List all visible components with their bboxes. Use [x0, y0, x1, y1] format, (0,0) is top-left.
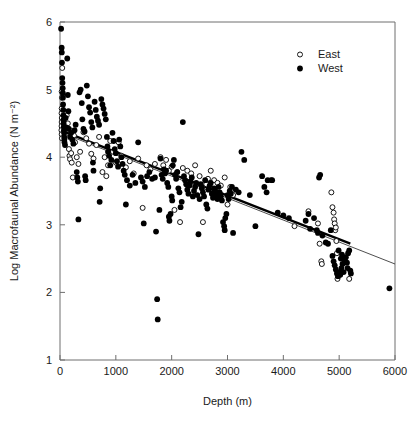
data-point-west: [76, 216, 82, 222]
data-point-east: [197, 174, 202, 179]
data-point-west: [105, 143, 111, 149]
data-point-west: [124, 177, 130, 183]
data-point-east: [100, 170, 105, 175]
data-point-west: [78, 87, 84, 93]
data-point-west: [230, 230, 236, 236]
data-point-west: [387, 285, 393, 291]
legend-marker-east: [298, 52, 303, 57]
data-point-east: [334, 239, 339, 244]
legend-marker-west: [297, 66, 303, 72]
data-point-west: [135, 139, 141, 145]
data-point-west: [264, 189, 270, 195]
data-point-west: [170, 162, 176, 168]
data-point-west: [174, 169, 180, 175]
x-axis-title: Depth (m): [203, 395, 252, 407]
data-point-west: [167, 218, 173, 224]
data-point-west: [306, 211, 312, 217]
data-point-east: [78, 149, 83, 154]
data-point-west: [59, 60, 65, 66]
data-point-west: [88, 119, 94, 125]
data-point-west: [330, 253, 336, 259]
data-point-west: [261, 184, 267, 190]
data-point-west: [226, 196, 232, 202]
scatter-plot-canvas: 0100020003000400050006000 123456 EastWes…: [0, 0, 418, 425]
data-point-west: [311, 215, 317, 221]
data-point-west: [317, 172, 323, 178]
data-point-west: [60, 80, 66, 86]
data-point-west: [344, 260, 350, 266]
data-point-west: [79, 100, 85, 106]
data-point-west: [286, 215, 292, 221]
data-point-east: [222, 175, 227, 180]
data-point-east: [76, 161, 81, 166]
data-point-west: [113, 150, 119, 156]
y-tick-label: 2: [46, 286, 52, 298]
data-point-west: [65, 92, 71, 98]
data-point-west: [90, 160, 96, 166]
data-point-west: [65, 108, 71, 114]
data-point-west: [141, 221, 147, 227]
data-point-west: [58, 26, 64, 32]
data-point-west: [64, 56, 70, 62]
data-point-west: [269, 177, 275, 183]
data-point-west: [280, 212, 286, 218]
data-point-west: [205, 206, 211, 212]
data-point-west: [338, 256, 344, 262]
data-point-east: [333, 225, 338, 230]
data-point-east: [331, 210, 336, 215]
data-point-west: [196, 231, 202, 237]
data-point-west: [60, 102, 66, 108]
data-point-west: [87, 110, 93, 116]
x-tick-label: 5000: [327, 365, 351, 377]
data-point-west: [82, 129, 88, 135]
data-point-east: [104, 174, 109, 179]
data-point-west: [216, 184, 222, 190]
data-point-east: [136, 156, 141, 161]
data-point-west: [114, 158, 120, 164]
data-point-west: [336, 248, 342, 254]
data-point-west: [97, 199, 103, 205]
data-point-west: [346, 248, 352, 254]
data-point-west: [110, 130, 116, 136]
data-point-west: [108, 157, 114, 163]
data-point-west: [104, 134, 110, 140]
y-axis-title: Log Macrofaunal Abundance (N m⁻²): [8, 101, 20, 281]
data-point-west: [348, 271, 354, 277]
data-point-west: [83, 177, 89, 183]
figure-scatter-plot: 0100020003000400050006000 123456 EastWes…: [0, 0, 418, 425]
data-point-east: [152, 161, 157, 166]
data-point-west: [154, 296, 160, 302]
data-point-east: [127, 159, 132, 164]
data-point-west: [202, 177, 208, 183]
data-point-west: [153, 229, 159, 235]
data-point-west: [253, 223, 259, 229]
data-point-west: [236, 189, 242, 195]
data-point-west: [123, 202, 129, 208]
data-point-west: [165, 184, 171, 190]
data-point-west: [92, 99, 98, 105]
data-point-west: [127, 183, 133, 189]
data-point-west: [103, 116, 109, 122]
data-point-east: [74, 155, 79, 160]
data-point-west: [303, 218, 309, 224]
x-tick-label: 6000: [383, 365, 407, 377]
data-point-west: [59, 50, 65, 56]
data-point-east: [94, 143, 99, 148]
data-point-east: [329, 190, 334, 195]
data-point-west: [97, 185, 103, 191]
data-point-east: [208, 168, 213, 173]
data-point-west: [146, 169, 152, 175]
data-point-west: [275, 210, 281, 216]
data-point-east: [84, 136, 89, 141]
data-point-west: [73, 122, 79, 128]
data-point-west: [62, 142, 68, 148]
y-tick-label: 4: [46, 151, 52, 163]
data-point-west: [168, 211, 174, 217]
data-point-west: [74, 169, 80, 175]
data-point-east: [87, 141, 92, 146]
data-point-west: [156, 207, 162, 213]
data-point-west: [223, 211, 229, 217]
data-point-west: [72, 127, 78, 133]
data-point-west: [259, 173, 265, 179]
data-point-west: [247, 192, 253, 198]
